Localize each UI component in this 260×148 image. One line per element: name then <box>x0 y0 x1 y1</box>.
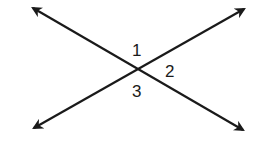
angle-label-2: 2 <box>165 62 174 81</box>
intersecting-lines-diagram: 1 2 3 <box>0 0 260 148</box>
angle-label-3: 3 <box>132 82 141 101</box>
angle-label-1: 1 <box>132 41 141 60</box>
